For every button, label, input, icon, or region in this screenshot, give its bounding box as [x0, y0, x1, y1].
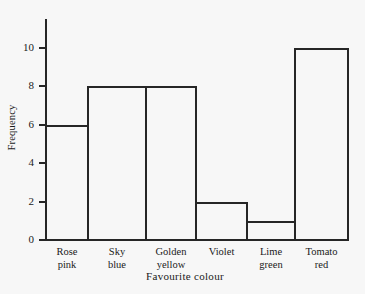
y-axis-title: Frequency: [6, 93, 17, 163]
bar-violet: [195, 202, 248, 241]
y-axis-tick-label: 2: [6, 196, 34, 207]
x-axis-title: Favourite colour: [110, 270, 260, 283]
chart-page: 1086420 Rose pinkSky blueGolden yellowVi…: [0, 0, 365, 294]
y-axis-tick-label: 0: [6, 234, 34, 245]
y-axis-tick-label: 10: [6, 42, 34, 53]
bar-chart-plot-area: 1086420 Rose pinkSky blueGolden yellowVi…: [0, 0, 365, 294]
bar-tomato-red: [294, 48, 349, 241]
bar-sky-blue: [87, 86, 147, 241]
bar-rose-pink: [45, 125, 89, 241]
y-axis-tick-label: 8: [6, 80, 34, 91]
y-axis-tick-8: [39, 85, 47, 87]
bar-golden-yellow: [145, 86, 197, 241]
y-axis-tick-10: [39, 47, 47, 49]
x-axis-label-tomato-red: Tomato red: [287, 246, 356, 271]
bar-lime-green: [246, 221, 296, 241]
